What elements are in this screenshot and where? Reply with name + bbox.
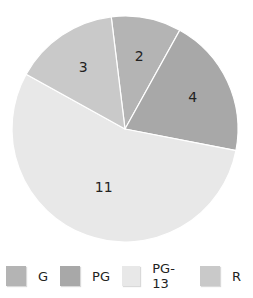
legend-label-pg: PG: [92, 269, 110, 284]
pie-label-g: 2: [135, 48, 144, 64]
pie-label-r: 3: [79, 59, 88, 75]
legend-label-g: G: [38, 269, 48, 284]
legend-label-pg13: PG-13: [152, 261, 188, 291]
legend-swatch-r: [200, 266, 220, 286]
legend-item-g: G: [6, 266, 48, 286]
legend-swatch-pg13: [122, 266, 140, 286]
legend-label-r: R: [232, 269, 241, 284]
legend: G PG PG-13 R: [6, 261, 253, 291]
pie-label-pg: 4: [188, 89, 197, 105]
legend-item-r: R: [200, 266, 241, 286]
legend-swatch-pg: [60, 266, 80, 286]
legend-item-pg: PG: [60, 266, 110, 286]
legend-item-pg13: PG-13: [122, 261, 188, 291]
pie-chart: 24113: [0, 0, 253, 250]
legend-swatch-g: [6, 266, 26, 286]
pie-label-pg13: 11: [95, 179, 113, 195]
